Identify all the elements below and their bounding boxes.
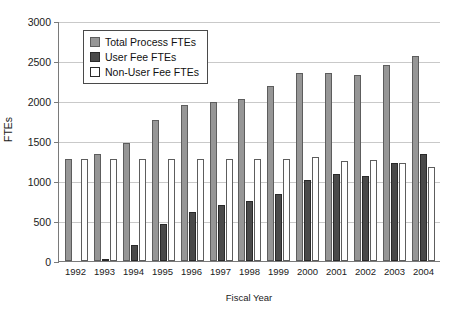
x-axis-tick-label: 1993 (90, 266, 119, 277)
bar (94, 154, 101, 261)
bar (168, 159, 175, 261)
legend-label-user-fee: User Fee FTEs (105, 51, 176, 63)
legend-label-non-user-fee: Non-User Fee FTEs (105, 66, 199, 78)
bar (65, 159, 72, 261)
bar (218, 205, 225, 261)
y-axis-tick-label: 1000 (28, 176, 51, 188)
x-axis-title: Fiscal Year (58, 292, 440, 303)
x-axis-tick-label: 2004 (409, 266, 438, 277)
bar (383, 65, 390, 261)
x-axis-tick-label: 2002 (351, 266, 380, 277)
legend-swatch-user-fee-icon (90, 52, 100, 62)
bar (370, 160, 377, 261)
bar-group (351, 22, 380, 261)
bar (131, 245, 138, 261)
bar-group (207, 22, 236, 261)
x-axis-tick-label: 1992 (61, 266, 90, 277)
bar (428, 167, 435, 261)
bar (412, 56, 419, 261)
bar (197, 159, 204, 261)
y-axis-tick-label: 500 (33, 216, 51, 228)
x-axis-tick-label: 1995 (148, 266, 177, 277)
bar (246, 201, 253, 261)
x-axis-tick-label: 2001 (322, 266, 351, 277)
x-axis-tick-labels: 1992199319941995199619971998199920002001… (58, 266, 440, 277)
bar-group (380, 22, 409, 261)
bar (226, 159, 233, 261)
legend-item-non-user-fee: Non-User Fee FTEs (90, 66, 199, 78)
bar (354, 75, 361, 261)
bar (110, 159, 117, 261)
y-axis-tick (54, 262, 59, 263)
bar (325, 73, 332, 261)
bar (267, 86, 274, 261)
x-axis-tick-label: 1996 (177, 266, 206, 277)
bar (210, 102, 217, 261)
y-axis-tick-label: 3000 (28, 16, 51, 28)
y-axis-tick-label: 0 (45, 256, 51, 268)
y-axis-tick-label: 1500 (28, 136, 51, 148)
bar (399, 163, 406, 261)
x-axis-tick-label: 2003 (380, 266, 409, 277)
bar-group (322, 22, 351, 261)
bar (341, 161, 348, 261)
y-axis-title: FTEs (2, 117, 14, 142)
bar (139, 159, 146, 261)
bar (362, 176, 369, 261)
legend-swatch-total-process-icon (90, 37, 100, 47)
bar (304, 180, 311, 261)
y-axis-tick-label: 2500 (28, 56, 51, 68)
bar (152, 120, 159, 261)
bar (296, 73, 303, 261)
bar-chart: FTEs 050010001500200025003000 Total Proc… (0, 0, 450, 320)
bar (420, 154, 427, 261)
x-axis-tick-label: 1999 (264, 266, 293, 277)
x-axis-tick-label: 2000 (293, 266, 322, 277)
legend-item-total-process: Total Process FTEs (90, 36, 199, 48)
bar (312, 157, 319, 261)
chart-legend: Total Process FTEs User Fee FTEs Non-Use… (83, 30, 208, 84)
bar (275, 194, 282, 261)
bar (283, 159, 290, 261)
bar (181, 105, 188, 261)
y-axis-tick-label: 2000 (28, 96, 51, 108)
x-axis-tick-label: 1998 (235, 266, 264, 277)
bar (391, 163, 398, 261)
bar (81, 159, 88, 261)
legend-item-user-fee: User Fee FTEs (90, 51, 199, 63)
bar (102, 259, 109, 261)
bar-group (409, 22, 438, 261)
bar (160, 224, 167, 261)
bar (123, 143, 130, 261)
bar-group (293, 22, 322, 261)
bar-group (264, 22, 293, 261)
bar (238, 99, 245, 261)
bar (333, 174, 340, 261)
bar-group (236, 22, 265, 261)
x-axis-tick-label: 1997 (206, 266, 235, 277)
bar (254, 159, 261, 261)
bar (189, 212, 196, 261)
legend-label-total-process: Total Process FTEs (105, 36, 196, 48)
legend-swatch-non-user-fee-icon (90, 67, 100, 77)
x-axis-tick-label: 1994 (119, 266, 148, 277)
